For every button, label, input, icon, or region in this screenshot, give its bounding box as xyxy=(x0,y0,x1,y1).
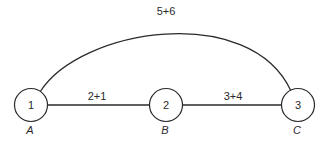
node-1-number: 1 xyxy=(28,99,34,111)
node-3-letter: C xyxy=(293,124,301,136)
node-1-letter: A xyxy=(25,124,33,136)
node-3-number: 3 xyxy=(295,99,301,111)
node-2-number: 2 xyxy=(163,99,169,111)
edge-label-2-3: 3+4 xyxy=(224,90,243,102)
node-2: 2 B xyxy=(150,89,183,137)
node-1: 1 A xyxy=(15,89,48,137)
edge-label-1-2: 2+1 xyxy=(88,90,107,102)
edge-label-arc: 5+6 xyxy=(157,5,176,17)
node-2-letter: B xyxy=(161,124,168,136)
graph-diagram: 5+6 2+1 3+4 1 A 2 B 3 C xyxy=(0,0,326,141)
node-3: 3 C xyxy=(282,89,315,137)
edge-arc-1-3 xyxy=(40,34,291,92)
